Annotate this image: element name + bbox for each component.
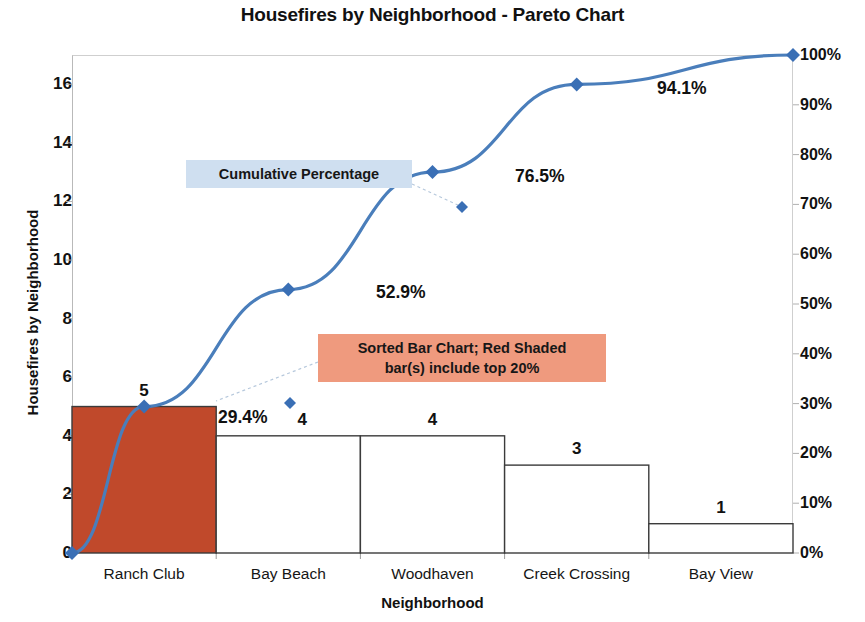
y-tick-label-left: 6 [26, 367, 72, 387]
y-tick-label-left: 14 [26, 133, 72, 153]
y-tick-label-left: 12 [26, 191, 72, 211]
y-tick-label-left: 0 [26, 543, 72, 563]
cumulative-percentage-label: 29.4% [218, 407, 268, 428]
y-tick-label-right: 90% [800, 96, 862, 114]
x-category-label: Bay Beach [216, 562, 360, 588]
annotation-sorted-bar-note: Sorted Bar Chart; Red Shaded bar(s) incl… [318, 334, 606, 382]
x-category-label: Woodhaven [360, 562, 504, 588]
y-tick-label-right: 0% [800, 544, 862, 562]
pareto-chart: Housefires by Neighborhood - Pareto Char… [0, 0, 865, 622]
y-axis-left-ticks: 0246810121416 [14, 0, 72, 622]
bar-value-label: 3 [572, 439, 581, 459]
y-tick-label-right: 80% [800, 146, 862, 164]
y-tick-label-right: 60% [800, 245, 862, 263]
y-tick-label-left: 4 [26, 426, 72, 446]
y-tick-label-left: 2 [26, 484, 72, 504]
bar-value-label: 5 [139, 381, 148, 401]
y-axis-right-ticks: 0%10%20%30%40%50%60%70%80%90%100% [800, 0, 864, 622]
x-axis-category-labels: Ranch ClubBay BeachWoodhavenCreek Crossi… [72, 562, 793, 588]
x-category-label: Ranch Club [72, 562, 216, 588]
bar-value-label: 1 [716, 498, 725, 518]
annotation-cumulative-percentage: Cumulative Percentage [186, 160, 412, 188]
y-tick-label-right: 10% [800, 494, 862, 512]
x-category-label: Creek Crossing [505, 562, 649, 588]
y-tick-label-right: 100% [800, 46, 862, 64]
bar-value-label: 4 [428, 410, 437, 430]
x-axis-title: Neighborhood [72, 594, 793, 611]
x-category-label: Bay View [649, 562, 793, 588]
bar-value-label: 4 [298, 410, 307, 430]
chart-title: Housefires by Neighborhood - Pareto Char… [0, 4, 865, 26]
cumulative-percentage-label: 52.9% [376, 282, 426, 303]
y-tick-label-right: 70% [800, 195, 862, 213]
y-tick-label-right: 20% [800, 444, 862, 462]
y-tick-label-right: 30% [800, 395, 862, 413]
plot-area [72, 55, 793, 553]
y-tick-label-left: 10 [26, 250, 72, 270]
y-tick-label-left: 16 [26, 74, 72, 94]
y-tick-label-right: 40% [800, 345, 862, 363]
y-tick-label-left: 8 [26, 309, 72, 329]
y-tick-label-right: 50% [800, 295, 862, 313]
cumulative-percentage-label: 76.5% [515, 166, 565, 187]
cumulative-percentage-label: 94.1% [657, 78, 707, 99]
